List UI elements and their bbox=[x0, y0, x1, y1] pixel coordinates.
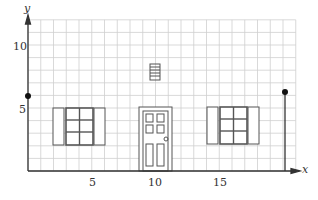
y-tick-10: 10 bbox=[13, 41, 27, 52]
x-tick-10: 10 bbox=[148, 177, 162, 188]
coordinate-plane-figure: y x 10 5 5 10 15 bbox=[0, 0, 318, 200]
figure-canvas bbox=[0, 0, 318, 200]
y-axis-label: y bbox=[24, 3, 30, 14]
x-tick-15: 15 bbox=[213, 177, 227, 188]
x-tick-5: 5 bbox=[89, 177, 96, 188]
y-axis-arrow-icon bbox=[26, 15, 31, 24]
door bbox=[139, 107, 172, 171]
x-axis-label: x bbox=[302, 164, 308, 175]
vent bbox=[150, 64, 160, 80]
left-window bbox=[53, 108, 105, 145]
right-point bbox=[282, 89, 288, 95]
right-window bbox=[207, 107, 259, 144]
x-axis-arrow-icon bbox=[291, 169, 300, 174]
y-tick-5: 5 bbox=[19, 104, 26, 115]
left-point bbox=[25, 93, 31, 99]
